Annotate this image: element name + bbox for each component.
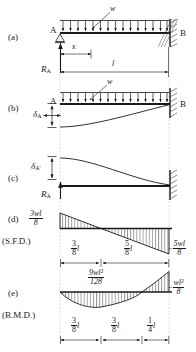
panel-e-id: (e) — [8, 289, 18, 298]
bmd-max-sag-value: 9wl²128 — [88, 269, 104, 286]
panel-d-id: (d) — [8, 215, 19, 224]
dimension-delta-a-prime — [48, 157, 57, 180]
dimension-delta-a — [44, 104, 61, 128]
fixed-support-c — [170, 170, 177, 200]
panel-c-id: (c) — [8, 174, 18, 183]
label-b-b-point: B — [180, 100, 186, 109]
bmd-dimensions — [61, 336, 169, 344]
deflection-curve-b — [60, 105, 170, 128]
panel-e-caption: (B.M.D.) — [2, 311, 35, 320]
fixed-support-b2 — [170, 88, 177, 118]
panel-b-cantilever-udl — [44, 85, 178, 128]
panel-c-cantilever-point-load — [48, 157, 178, 201]
bmd-dim-2: 38l — [111, 317, 119, 334]
bmd-dim-1: 38l — [71, 317, 79, 334]
sfd-right-value: −5wl8 — [168, 240, 186, 257]
bmd-right-value: −wl²8 — [168, 279, 184, 296]
sfd-dimensions — [61, 259, 169, 267]
sfd-dim-1: 38l — [71, 240, 79, 257]
label-delta-a: δA — [33, 110, 42, 119]
label-w-b: w — [107, 78, 112, 86]
sfd-left-value: 3wl8 — [29, 210, 43, 227]
label-a-point: A — [50, 26, 57, 35]
beam-analysis-figure — [0, 0, 196, 352]
label-span-l: l — [112, 60, 114, 68]
label-reaction-a-c: RA — [41, 190, 51, 199]
label-reaction-a: RA — [41, 65, 51, 74]
panel-b-id: (b) — [8, 104, 19, 113]
udl-arrows-b — [63, 93, 167, 102]
dimension-span-l — [61, 47, 169, 77]
label-delta-a-prime: δA′ — [31, 162, 41, 171]
label-w-a: w — [110, 5, 115, 13]
udl-arrows-a — [63, 21, 167, 31]
w-leader-b — [92, 85, 107, 98]
bmd-dim-3: 14l — [147, 317, 155, 334]
deflection-curve-c — [60, 158, 170, 185]
label-x: x — [72, 43, 76, 51]
label-b-point: B — [180, 29, 186, 38]
panel-a-id: (a) — [8, 33, 18, 42]
label-b-a-point: A — [50, 97, 57, 106]
sfd-dim-2: 58l — [124, 240, 132, 257]
panel-d-caption: (S.F.D.) — [2, 237, 31, 246]
